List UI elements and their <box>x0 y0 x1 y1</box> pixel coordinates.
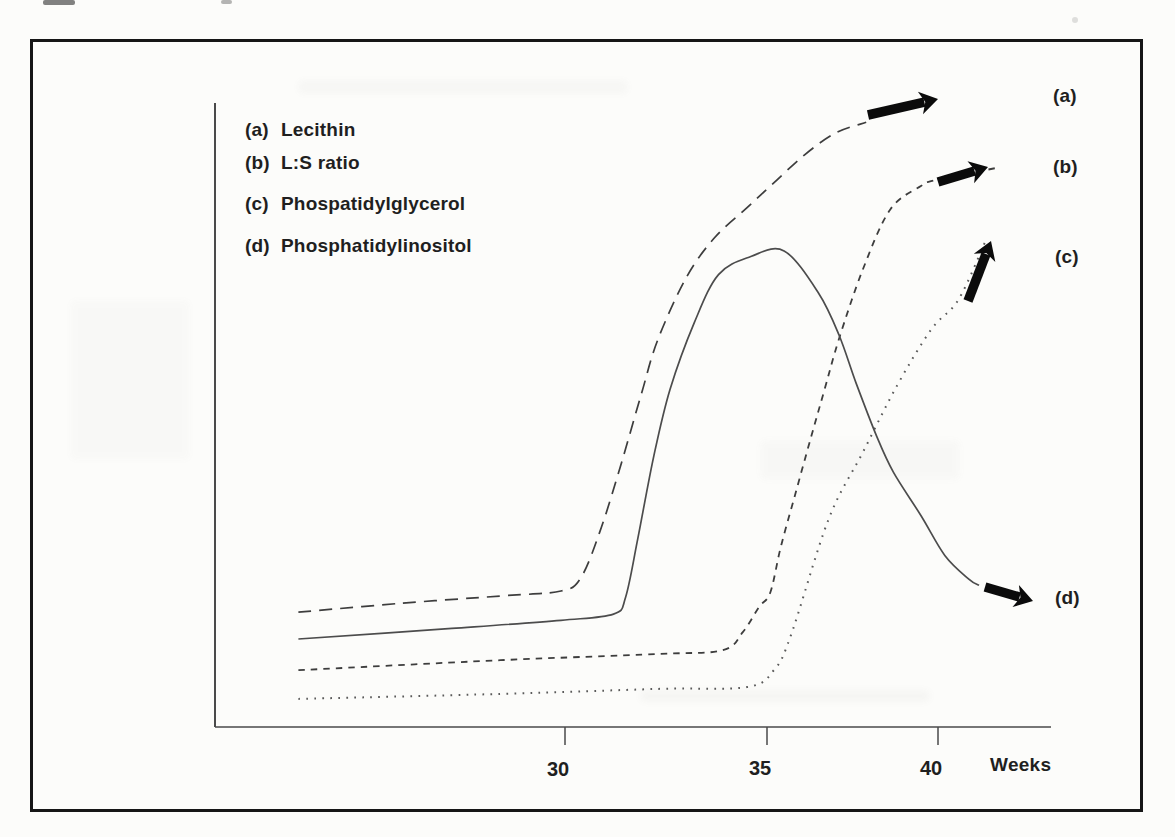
scanned-figure-page: (a)Lecithin (b)L:S ratio (c)Phospatidylg… <box>0 0 1175 837</box>
curve-label-d: (d) <box>1055 587 1080 609</box>
arrow-shaft-a <box>868 102 924 115</box>
legend-item-ls-ratio: (b)L:S ratio <box>245 152 360 176</box>
curve-c-phospatidylglycerol <box>298 240 986 699</box>
legend-name: Phosphatidylinositol <box>281 235 472 256</box>
arrow-shaft-d <box>985 587 1020 597</box>
chart-canvas <box>0 0 1175 837</box>
x-tick-label-30: 30 <box>540 758 576 781</box>
arrow-shaft-c <box>968 254 986 301</box>
arrow-shaft-b <box>938 171 975 182</box>
legend-name: L:S ratio <box>281 152 360 173</box>
legend-item-phosphatidylinositol: (d)Phosphatidylinositol <box>245 235 472 259</box>
legend-name: Phospatidylglycerol <box>281 193 465 214</box>
legend-name: Lecithin <box>281 119 355 140</box>
x-axis-unit-label: Weeks <box>990 754 1051 776</box>
legend-item-phospatidylglycerol: (c)Phospatidylglycerol <box>245 193 465 217</box>
curve-label-b: (b) <box>1053 156 1078 178</box>
x-tick-label-35: 35 <box>742 757 778 780</box>
curve-d-phosphatidylinositol <box>298 249 979 639</box>
curve-label-a: (a) <box>1053 85 1077 107</box>
legend-item-lecithin: (a)Lecithin <box>245 119 355 143</box>
legend-key: (a) <box>245 119 277 141</box>
legend-key: (c) <box>245 193 277 215</box>
legend-key: (d) <box>245 235 277 257</box>
curve-label-c: (c) <box>1055 246 1079 268</box>
legend-key: (b) <box>245 152 277 174</box>
x-tick-label-40: 40 <box>913 757 949 780</box>
